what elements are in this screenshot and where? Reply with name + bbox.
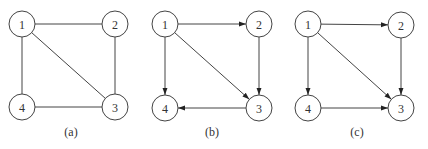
node-label: 1 — [19, 18, 25, 32]
node-c-4: 4 — [295, 95, 321, 121]
node-b-3: 3 — [246, 95, 272, 121]
node-label: 2 — [398, 19, 404, 33]
node-a-3: 3 — [102, 94, 128, 120]
node-label: 4 — [305, 102, 311, 116]
node-label: 3 — [112, 101, 118, 115]
node-label: 3 — [398, 102, 404, 116]
caption-b: (b) — [205, 125, 219, 139]
node-label: 4 — [162, 102, 168, 116]
node-c-3: 3 — [388, 95, 414, 121]
graph-b-edges — [165, 24, 259, 108]
graph-c-edges — [308, 24, 401, 108]
edge-a-1-3 — [32, 33, 106, 99]
node-b-4: 4 — [152, 95, 178, 121]
node-label: 4 — [19, 101, 25, 115]
node-label: 2 — [256, 18, 262, 32]
node-label: 3 — [256, 102, 262, 116]
node-a-2: 2 — [102, 11, 128, 37]
edge-c-1-2 — [321, 24, 388, 25]
node-b-2: 2 — [246, 11, 272, 37]
caption-a: (a) — [64, 125, 77, 139]
node-label: 1 — [305, 18, 311, 32]
edge-b-1-3 — [175, 33, 250, 100]
graph-diagrams: 123412341234 (a)(b)(c) — [0, 0, 428, 149]
node-a-4: 4 — [9, 94, 35, 120]
node-label: 2 — [112, 18, 118, 32]
node-b-1: 1 — [152, 11, 178, 37]
node-a-1: 1 — [9, 11, 35, 37]
graph-a-edges — [22, 24, 115, 107]
edge-c-1-3 — [318, 33, 392, 100]
node-label: 1 — [162, 18, 168, 32]
node-c-1: 1 — [295, 11, 321, 37]
caption-c: (c) — [350, 125, 363, 139]
node-c-2: 2 — [388, 12, 414, 38]
